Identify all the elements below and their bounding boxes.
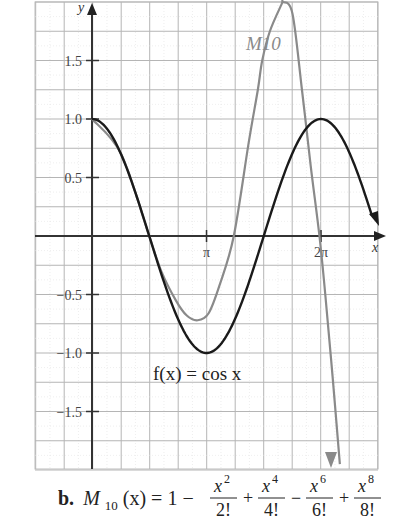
svg-text:+: + xyxy=(243,488,253,508)
svg-text:6: 6 xyxy=(320,472,326,486)
m10-label: M10 xyxy=(245,33,281,54)
svg-text:4!: 4! xyxy=(264,500,279,520)
svg-text:b. M 10 (x): b. M 10 (x) = 1 − xyxy=(58,487,194,514)
svg-text:x: x xyxy=(213,476,222,496)
y-tick-label: 1.5 xyxy=(65,54,83,69)
svg-text:+: + xyxy=(339,488,349,508)
y-tick-label: −1.5 xyxy=(57,405,82,420)
y-tick-label: −1.0 xyxy=(57,346,82,361)
caption-formula: b. M 10 (x) = 1 − x22!+x44!−x66!+x88! xyxy=(0,472,398,525)
x-tick-label: π xyxy=(203,245,210,260)
svg-text:2: 2 xyxy=(224,472,230,486)
chart: x y 1.51.00.5−0.5−1.0−1.5π2π M10 f(x) = … xyxy=(0,0,398,472)
caption-part-label: b. xyxy=(58,487,74,509)
caption-lhs: M xyxy=(82,487,101,509)
svg-text:−: − xyxy=(291,488,301,508)
y-tick-label: 1.0 xyxy=(65,112,83,127)
y-tick-label: 0.5 xyxy=(65,171,83,186)
x-axis-label: x xyxy=(371,240,379,255)
caption-lhs-sub: 10 xyxy=(105,498,118,513)
y-tick-label: −0.5 xyxy=(57,288,82,303)
svg-text:x: x xyxy=(357,476,366,496)
svg-text:8: 8 xyxy=(368,472,374,486)
fraction-term: x66!+ xyxy=(306,472,349,520)
fraction-term: x22!+ xyxy=(210,472,253,520)
svg-text:6!: 6! xyxy=(312,500,327,520)
svg-text:4: 4 xyxy=(272,472,278,486)
fraction-term: x44!− xyxy=(258,472,301,520)
svg-text:x: x xyxy=(261,476,270,496)
caption-lhs-arg: (x) = 1 − xyxy=(123,487,194,510)
caption: b. M 10 (x) = 1 − x22!+x44!−x66!+x88! xyxy=(0,472,398,525)
svg-text:2!: 2! xyxy=(216,500,231,520)
fraction-terms: x22!+x44!−x66!+x88! xyxy=(210,472,381,520)
fraction-term: x88! xyxy=(354,472,381,520)
svg-text:8!: 8! xyxy=(360,500,375,520)
svg-text:x: x xyxy=(309,476,318,496)
y-axis-label: y xyxy=(76,0,85,15)
cos-label: f(x) = cos x xyxy=(153,363,242,385)
